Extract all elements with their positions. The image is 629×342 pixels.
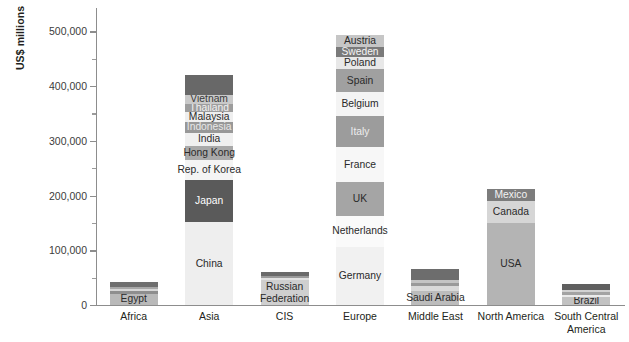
y-tick-minor <box>92 59 96 60</box>
x-label-south-central-america: South CentralAmerica <box>549 310 624 335</box>
bar-segment-label: Japan <box>195 196 223 206</box>
y-tick-major <box>90 141 96 142</box>
plot-area: 0100,000200,000300,000400,000500,000 Egy… <box>96 8 624 306</box>
bar-segment-rep-of-korea[interactable]: Rep. of Korea <box>185 160 233 180</box>
bar-segment-netherlands[interactable]: Netherlands <box>336 216 384 247</box>
y-tick-label: 500,000 <box>27 25 87 37</box>
bar-segment-label: France <box>344 160 376 170</box>
x-label-middle-east: Middle East <box>398 310 473 323</box>
bar-europe[interactable]: GermanyNetherlandsUKFranceItalyBelgiumSp… <box>336 17 384 305</box>
bar-segment-china[interactable]: China <box>185 222 233 305</box>
bar-segment[interactable] <box>562 290 610 292</box>
y-tick-label: 300,000 <box>27 135 87 147</box>
bar-segment-label: USA <box>500 259 521 269</box>
y-tick-major <box>90 86 96 87</box>
bar-segment-label: Austria <box>344 36 376 46</box>
y-tick-label: 100,000 <box>27 244 87 256</box>
bar-segment-label: Italy <box>351 127 370 137</box>
bar-africa[interactable]: Egypt <box>110 282 158 305</box>
y-tick-major <box>90 305 96 306</box>
x-label-north-america: North America <box>473 310 548 323</box>
bar-segment[interactable] <box>411 269 459 280</box>
x-label-europe: Europe <box>322 310 397 323</box>
bar-segment-label: Malaysia <box>189 112 230 122</box>
bar-asia[interactable]: ChinaJapanRep. of KoreaHong KongIndiaInd… <box>185 75 233 305</box>
bar-segment[interactable] <box>411 286 459 290</box>
bar-segment[interactable] <box>185 75 233 95</box>
bar-middle-east[interactable]: Saudi Arabia <box>411 269 459 305</box>
bar-segment-poland[interactable]: Poland <box>336 57 384 69</box>
bar-segment-label: China <box>196 259 223 269</box>
bar-segment-hong-kong[interactable]: Hong Kong <box>185 146 233 160</box>
bar-segment[interactable] <box>411 280 459 283</box>
bar-segment-label: Russian Federation <box>260 281 309 305</box>
bar-segment[interactable] <box>261 276 309 278</box>
y-axis-line <box>96 8 97 306</box>
bar-north-america[interactable]: USACanadaMexico <box>487 189 535 305</box>
bar-segment-russian-federation[interactable]: Russian Federation <box>261 280 309 305</box>
bar-segment[interactable] <box>110 291 158 294</box>
bar-segment[interactable] <box>261 278 309 280</box>
bar-segment-label: Egypt <box>121 294 147 304</box>
y-tick-minor <box>92 113 96 114</box>
bar-segment-label: Poland <box>344 58 376 68</box>
y-tick-label: 200,000 <box>27 190 87 202</box>
bar-segment-label: Hong Kong <box>183 148 235 158</box>
bar-segment-label: Rep. of Korea <box>177 165 241 175</box>
bar-segment-vietnam[interactable]: Vietnam <box>185 95 233 104</box>
y-tick-minor <box>92 278 96 279</box>
y-tick-label: 400,000 <box>27 80 87 92</box>
bar-segment-label: Belgium <box>341 99 378 109</box>
bar-segment-malaysia[interactable]: Malaysia <box>185 112 233 122</box>
bar-segment-label: Mexico <box>495 190 528 200</box>
y-tick-major <box>90 31 96 32</box>
bar-segment[interactable] <box>261 272 309 276</box>
bar-segment[interactable] <box>110 289 158 291</box>
bar-segment-uk[interactable]: UK <box>336 182 384 216</box>
x-label-asia: Asia <box>171 310 246 323</box>
y-tick-major <box>90 196 96 197</box>
y-tick-minor <box>92 168 96 169</box>
bar-segment-austria[interactable]: Austria <box>336 35 384 47</box>
bar-segment-label: Saudi Arabia <box>406 293 464 303</box>
bar-segment[interactable] <box>562 292 610 294</box>
x-label-cis: CIS <box>247 310 322 323</box>
bar-segment-label: Vietnam <box>190 94 228 104</box>
bar-segment-brazil[interactable]: Brazil <box>562 297 610 305</box>
bar-segment-mexico[interactable]: Mexico <box>487 189 535 201</box>
bar-segment-usa[interactable]: USA <box>487 223 535 305</box>
bar-segment-sweden[interactable]: Sweden <box>336 47 384 57</box>
bar-segment[interactable] <box>562 295 610 298</box>
y-tick-minor <box>92 223 96 224</box>
y-tick-major <box>90 250 96 251</box>
bar-segment-italy[interactable]: Italy <box>336 116 384 147</box>
x-label-line2: America <box>549 323 624 336</box>
bar-segment-india[interactable]: India <box>185 133 233 147</box>
bar-segment-canada[interactable]: Canada <box>487 201 535 223</box>
bar-segment-germany[interactable]: Germany <box>336 247 384 305</box>
bar-segment[interactable] <box>562 284 610 290</box>
bar-segment-label: Thailand <box>189 103 229 113</box>
bar-cis[interactable]: Russian Federation <box>261 272 309 305</box>
bar-segment-label: Indonesia <box>187 122 232 132</box>
bar-segment[interactable] <box>411 283 459 286</box>
bar-segment-indonesia[interactable]: Indonesia <box>185 122 233 132</box>
bar-segment-label: India <box>198 134 220 144</box>
bar-segment-saudi-arabia[interactable]: Saudi Arabia <box>411 291 459 305</box>
bar-segment[interactable] <box>110 282 158 287</box>
bar-segment-egypt[interactable]: Egypt <box>110 294 158 305</box>
stacked-bar-chart: US$ millions 0100,000200,000300,000400,0… <box>0 0 629 342</box>
x-label-line1: South Central <box>549 310 624 323</box>
bar-segment-belgium[interactable]: Belgium <box>336 92 384 116</box>
bar-segment-thailand[interactable]: Thailand <box>185 104 233 112</box>
x-label-africa: Africa <box>96 310 171 323</box>
bar-segment-france[interactable]: France <box>336 147 384 181</box>
bar-segment-label: Netherlands <box>332 226 388 236</box>
bar-segment-label: Spain <box>347 76 373 86</box>
bar-segment[interactable] <box>110 287 158 289</box>
bar-segment-label: Germany <box>339 271 381 281</box>
bar-segment-spain[interactable]: Spain <box>336 69 384 92</box>
bar-segment-japan[interactable]: Japan <box>185 180 233 222</box>
bar-south-central-america[interactable]: Brazil <box>562 284 610 305</box>
bar-segment-label: Canada <box>493 207 529 217</box>
